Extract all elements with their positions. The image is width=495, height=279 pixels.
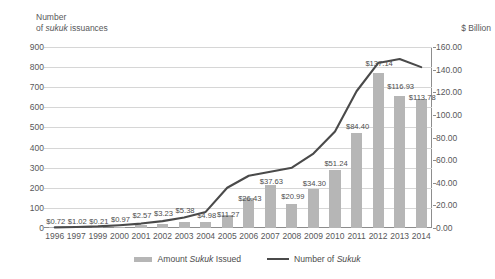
- y-axis-tick-label: 0: [14, 224, 44, 233]
- bar-value-label: $34.30: [299, 180, 329, 188]
- y2-axis-tick-label: 60.00: [436, 156, 482, 165]
- y-axis-tick-label: 300: [14, 163, 44, 172]
- y2-axis-tick-label: 0.00: [436, 224, 482, 233]
- y-axis-tick-label: 400: [14, 143, 44, 152]
- bar-value-label: $116.93: [386, 83, 416, 91]
- y-axis-tick-label: 800: [14, 63, 44, 72]
- y2-axis-tick-label: 80.00: [436, 133, 482, 142]
- y2-axis-tick-label: 120.00: [436, 88, 482, 97]
- legend-label-bars: Amount Sukuk Issued: [157, 254, 241, 264]
- y-axis-tick-label: 900: [14, 43, 44, 52]
- y2-axis-tick-mark: [433, 205, 436, 206]
- legend-label-line: Number of Sukuk: [294, 254, 360, 264]
- bar-swatch-icon: [134, 257, 152, 262]
- chart-container: Numberof sukuk issuances $ Billion 01002…: [0, 0, 495, 279]
- bar-value-label: $26.43: [235, 195, 265, 203]
- left-axis-title: Numberof sukuk issuances: [36, 12, 108, 33]
- y2-axis-tick-label: 100.00: [436, 110, 482, 119]
- bar-value-label: $84.40: [343, 123, 373, 131]
- legend-item-number-of-sukuk[interactable]: Number of Sukuk: [267, 254, 360, 264]
- y2-axis-tick-label: 40.00: [436, 178, 482, 187]
- y2-axis-tick-mark: [433, 160, 436, 161]
- y-axis-tick-label: 600: [14, 103, 44, 112]
- legend-item-amount-sukuk-issued[interactable]: Amount Sukuk Issued: [134, 254, 241, 264]
- y2-axis-tick-label: 20.00: [436, 201, 482, 210]
- y2-axis-tick-mark: [433, 115, 436, 116]
- y-axis-tick-label: 700: [14, 83, 44, 92]
- y-axis-tick-label: 500: [14, 123, 44, 132]
- y-axis-tick-label: 100: [14, 203, 44, 212]
- chart-legend: Amount Sukuk Issued Number of Sukuk: [0, 254, 495, 264]
- line-swatch-icon: [267, 258, 289, 261]
- y2-axis-tick-mark: [433, 183, 436, 184]
- left-axis-title-line1: Number: [36, 12, 66, 22]
- y2-axis-tick-label: 160.00: [436, 43, 482, 52]
- y2-axis-tick-mark: [433, 228, 436, 229]
- bar-value-label: $137.14: [364, 60, 394, 68]
- bar-value-label: $11.27: [213, 211, 243, 219]
- y2-axis-tick-mark: [433, 47, 436, 48]
- bar-value-label: $20.99: [278, 193, 308, 201]
- left-axis-title-line2-post: issuances: [68, 23, 108, 33]
- bar-value-label: $113.78: [407, 94, 437, 102]
- y2-axis-tick-mark: [433, 138, 436, 139]
- right-axis-title: $ Billion: [461, 23, 491, 34]
- bar-value-label: $37.63: [256, 178, 286, 186]
- y-axis-tick-label: 200: [14, 183, 44, 192]
- y2-axis-tick-label: 140.00: [436, 65, 482, 74]
- x-axis-tick-label: 2014: [408, 231, 434, 241]
- bar-value-label: $51.24: [321, 160, 351, 168]
- left-axis-title-em: sukuk: [45, 23, 67, 33]
- y2-axis-tick-mark: [433, 70, 436, 71]
